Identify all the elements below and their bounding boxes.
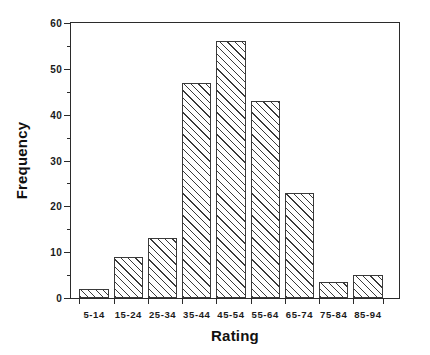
- y-axis-tick: [64, 161, 71, 162]
- x-axis-tick-label: 45-54: [217, 309, 244, 320]
- histogram-bar: [182, 83, 211, 298]
- x-axis-tick: [182, 298, 183, 304]
- x-axis-tick-label: 35-44: [183, 309, 210, 320]
- y-axis-tick-label: 10: [50, 247, 62, 258]
- histogram-bar: [285, 193, 314, 298]
- y-axis-tick-label: 0: [56, 293, 62, 304]
- x-axis-tick: [79, 298, 80, 304]
- y-axis-tick: [64, 115, 71, 116]
- y-axis-tick-label: 40: [50, 109, 62, 120]
- x-axis-tick: [353, 298, 354, 304]
- x-axis-tick-label: 25-34: [149, 309, 176, 320]
- histogram-bar: [79, 289, 108, 298]
- x-axis-tick-label: 5-14: [83, 309, 104, 320]
- x-axis-title: Rating: [70, 327, 400, 344]
- histogram-bar: [319, 282, 348, 298]
- histogram-bar: [353, 275, 382, 298]
- histogram-bar: [216, 41, 245, 298]
- y-axis-tick-label: 50: [50, 63, 62, 74]
- y-axis-minor-tick: [67, 229, 71, 230]
- x-axis-tick: [319, 298, 320, 304]
- histogram-bar: [148, 238, 177, 298]
- plot-area: 01020304050605-1415-2425-3435-4445-5455-…: [70, 22, 400, 299]
- histogram-bar: [251, 101, 280, 298]
- y-axis-tick: [64, 23, 71, 24]
- x-axis-tick-label: 75-84: [320, 309, 347, 320]
- y-axis-minor-tick: [67, 275, 71, 276]
- y-axis-title: Frequency: [12, 22, 32, 299]
- bars-group: [71, 23, 399, 298]
- x-axis-tick-label: 65-74: [286, 309, 313, 320]
- y-axis-tick: [64, 252, 71, 253]
- x-axis-tick: [251, 298, 252, 304]
- x-axis-tick: [216, 298, 217, 304]
- y-axis-tick: [64, 69, 71, 70]
- y-axis-tick: [64, 298, 71, 299]
- x-axis-tick-label: 55-64: [252, 309, 279, 320]
- y-axis-minor-tick: [67, 92, 71, 93]
- x-axis-tick: [114, 298, 115, 304]
- y-axis-tick-label: 60: [50, 18, 62, 29]
- histogram-bar: [114, 257, 143, 298]
- x-axis-tick: [148, 298, 149, 304]
- x-axis-tick: [285, 298, 286, 304]
- x-axis-tick-label: 85-94: [354, 309, 381, 320]
- y-axis-minor-tick: [67, 138, 71, 139]
- y-axis-minor-tick: [67, 46, 71, 47]
- x-axis-tick: [383, 298, 384, 304]
- y-axis-tick: [64, 206, 71, 207]
- histogram-figure: Frequency 01020304050605-1415-2425-3435-…: [0, 0, 430, 355]
- y-axis-title-text: Frequency: [14, 122, 31, 200]
- x-axis-tick-label: 15-24: [115, 309, 142, 320]
- y-axis-minor-tick: [67, 183, 71, 184]
- y-axis-tick-label: 30: [50, 155, 62, 166]
- y-axis-tick-label: 20: [50, 201, 62, 212]
